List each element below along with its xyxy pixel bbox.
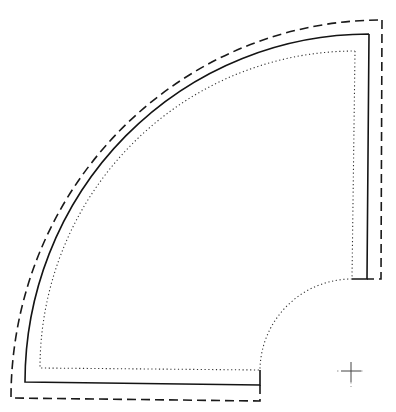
center-crosshair-icon (337, 362, 365, 387)
quilting-line (40, 51, 355, 370)
pattern-piece-diagram (0, 0, 396, 412)
seam-line (25, 34, 369, 385)
cutting-line (11, 20, 382, 401)
